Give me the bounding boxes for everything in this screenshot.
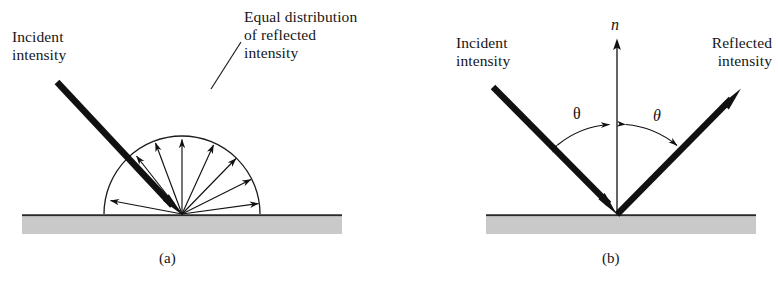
incident-ray-b bbox=[493, 87, 617, 215]
surface-slab-b bbox=[486, 215, 756, 234]
angle-arc-left bbox=[558, 125, 610, 146]
equal-distribution-line-2: of reflected bbox=[244, 26, 357, 44]
angle-arc-right bbox=[626, 125, 678, 146]
panel-a-artwork bbox=[22, 42, 342, 234]
reflected-intensity-label: Reflected intensity bbox=[642, 34, 772, 70]
incident-intensity-label-a: Incident intensity bbox=[12, 28, 66, 64]
reflected-ray-group bbox=[111, 140, 259, 215]
reflected-ray-b bbox=[617, 89, 741, 215]
incident-intensity-label-b: Incident intensity bbox=[456, 34, 510, 70]
reflection-figure: Incident intensity Equal distribution of… bbox=[0, 0, 778, 283]
equal-distribution-line-3: intensity bbox=[244, 44, 357, 62]
reflected-ray-6 bbox=[182, 159, 236, 215]
surface-slab-a bbox=[22, 215, 342, 234]
incident-ray-a bbox=[57, 82, 183, 215]
distribution-leader-line bbox=[211, 42, 241, 89]
panel-b-caption: (b) bbox=[602, 250, 620, 267]
theta-right-label: θ bbox=[653, 107, 661, 125]
equal-distribution-line-1: Equal distribution bbox=[244, 8, 357, 26]
theta-left-label: θ bbox=[573, 105, 581, 123]
panel-a-caption: (a) bbox=[159, 250, 176, 267]
normal-vector-label: n bbox=[611, 16, 619, 34]
equal-distribution-label: Equal distribution of reflected intensit… bbox=[244, 8, 357, 62]
reflected-ray-5 bbox=[182, 145, 214, 214]
normal-axis bbox=[613, 39, 621, 216]
